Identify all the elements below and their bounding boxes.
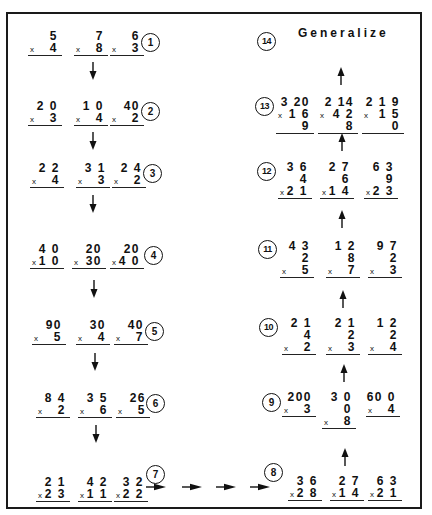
- problem-12b: 2 7 6x1 4: [320, 161, 354, 199]
- arrow-up-icon: [338, 290, 348, 308]
- problem-2b: 1 0x4: [74, 100, 108, 126]
- step-number-12: 12: [257, 162, 276, 181]
- problem-4a: 4 0x1 0: [30, 243, 64, 269]
- step-number-2: 2: [141, 102, 160, 121]
- problem-9a: 200x3: [282, 391, 316, 417]
- problem-5c: 40x7: [114, 319, 148, 345]
- step-number-7: 7: [146, 465, 165, 484]
- arrow-right-icon: [182, 483, 202, 491]
- problem-10b: 2 1 2x3: [326, 317, 360, 355]
- arrow-up-icon: [337, 210, 347, 228]
- problem-11b: 1 2 8x7: [326, 240, 360, 278]
- problem-10c: 1 2 2x4: [368, 317, 402, 355]
- arrow-up-icon: [336, 67, 346, 85]
- step-number-3: 3: [143, 164, 162, 183]
- step-number-8: 8: [264, 463, 283, 482]
- problem-13a: 3 20x1 6 9: [276, 96, 314, 134]
- problem-12a: 3 6 4x2 1: [278, 161, 312, 199]
- step-number-5: 5: [145, 322, 164, 341]
- problem-6b: 3 5x6: [78, 392, 112, 418]
- problem-4c: 20x4 0: [110, 243, 144, 269]
- step-number-9: 9: [262, 393, 281, 412]
- problem-10a: 2 1 4x2: [282, 317, 316, 355]
- arrow-down-icon: [88, 132, 98, 150]
- problem-3c: 2 4x2: [112, 162, 146, 188]
- problem-3b: 3 1x3: [76, 162, 110, 188]
- step-number-10: 10: [259, 318, 278, 337]
- problem-7b: 4 2x1 1: [78, 476, 112, 502]
- arrow-up-icon: [337, 133, 347, 151]
- problem-3a: 2 2x4: [30, 162, 64, 188]
- step-number-14: 14: [257, 32, 276, 51]
- problem-8a: 3 6x2 8: [288, 475, 322, 501]
- arrow-right-icon: [216, 483, 236, 491]
- problem-8c: 6 3x2 1: [368, 475, 402, 501]
- problem-9b: 3 0 0x8: [322, 391, 356, 429]
- arrow-down-icon: [88, 195, 98, 213]
- problem-6a: 8 4x2: [36, 392, 70, 418]
- problem-13c: 2 1 9x1 5 0: [362, 96, 404, 134]
- problem-7c: 3 2x2 2: [114, 476, 148, 502]
- step-number-4: 4: [144, 246, 163, 265]
- arrow-up-icon: [339, 364, 349, 382]
- arrow-right-icon: [146, 483, 166, 491]
- problem-8b: 2 7x1 4: [330, 475, 364, 501]
- problem-5a: 90x5: [32, 319, 66, 345]
- problem-12c: 6 3 9x2 3: [364, 161, 398, 199]
- step-number-13: 13: [255, 97, 274, 116]
- problem-11c: 9 7 2x3: [368, 240, 402, 278]
- problem-13b: 2 14x4 2 8: [318, 96, 358, 134]
- step-number-11: 11: [258, 240, 277, 259]
- generalize-title: Generalize: [298, 26, 389, 40]
- problem-5b: 30x4: [76, 319, 110, 345]
- arrow-down-icon: [90, 353, 100, 371]
- problem-1a: 5x4: [28, 30, 62, 56]
- step-number-6: 6: [146, 394, 165, 413]
- problem-11a: 4 3 2x5: [280, 240, 314, 278]
- problem-2a: 2 0x3: [28, 100, 62, 126]
- problem-1b: 7x8: [74, 30, 108, 56]
- problem-4b: 20x30: [72, 243, 106, 269]
- step-number-1: 1: [141, 33, 160, 52]
- arrow-up-icon: [340, 448, 350, 466]
- arrow-right-icon: [250, 483, 270, 491]
- problem-6c: 26x5: [116, 392, 150, 418]
- problem-7a: 2 1x2 3: [36, 476, 70, 502]
- arrow-down-icon: [91, 425, 101, 443]
- arrow-down-icon: [88, 62, 98, 80]
- problem-2c: 40x2: [110, 100, 144, 126]
- problem-9c: 60 0x4: [366, 391, 400, 417]
- problem-1c: 6x3: [110, 30, 144, 56]
- arrow-down-icon: [89, 280, 99, 298]
